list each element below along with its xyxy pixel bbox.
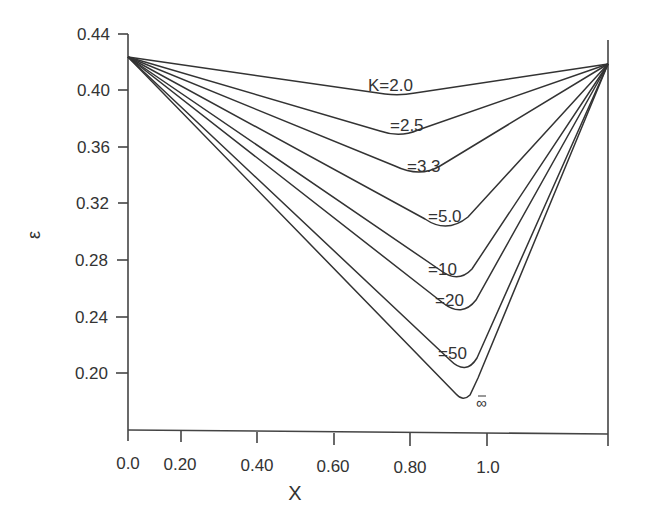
curve-label: =20	[435, 291, 464, 310]
y-axis-title: ε	[24, 231, 44, 239]
x-axis-title: X	[288, 482, 301, 504]
y-tick-label: 0.44	[77, 25, 110, 44]
x-tick-label: 1.0	[476, 458, 500, 477]
curve-label: ∞	[476, 394, 487, 411]
x-axis	[128, 430, 608, 434]
x-tick-label: 0.20	[163, 455, 196, 474]
y-ticks	[116, 34, 128, 373]
curve-label: =10	[428, 260, 457, 279]
x-tick-labels: 0.0 0.20 0.40 0.60 0.80 1.0	[116, 454, 500, 477]
curves	[128, 57, 608, 398]
curve-label: =50	[438, 344, 467, 363]
x-tick-label: 0.0	[116, 454, 140, 473]
curve-k-50	[128, 57, 608, 368]
curve-label: =2.5	[390, 116, 424, 135]
y-tick-label: 0.40	[77, 81, 110, 100]
y-tick-label: 0.20	[75, 364, 108, 383]
chart: 0.44 0.40 0.36 0.32 0.28 0.24 0.20 0.0 0…	[0, 0, 650, 522]
y-tick-label: 0.24	[75, 308, 108, 327]
x-tick-label: 0.40	[240, 456, 273, 475]
y-tick-label: 0.28	[75, 251, 108, 270]
y-tick-labels: 0.44 0.40 0.36 0.32 0.28 0.24 0.20	[75, 25, 110, 383]
x-tick-label: 0.80	[393, 458, 426, 477]
y-tick-label: 0.32	[76, 194, 109, 213]
curve-label: =5.0	[428, 207, 462, 226]
curve-label: K=2.0	[368, 76, 413, 95]
y-tick-label: 0.36	[77, 138, 110, 157]
curve-label: =3.3	[407, 157, 441, 176]
x-tick-label: 0.60	[316, 457, 349, 476]
